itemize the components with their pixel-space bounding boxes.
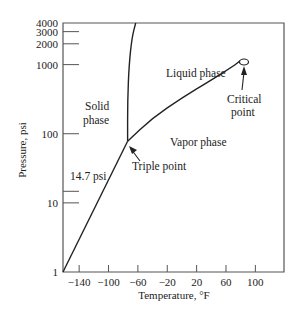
phase-diagram: −140−100−60−202060100 110100100020003000…	[0, 0, 299, 316]
liquid-phase-label: Liquid phase	[166, 67, 226, 80]
solid-phase-label-line1: Solid	[85, 100, 110, 112]
critical-point-arrow	[241, 66, 247, 90]
triple-point-arrow	[129, 146, 140, 161]
x-axis-title: Temperature, °F	[138, 289, 209, 301]
y-axis: 1101001000200030004000	[36, 17, 79, 278]
critical-point-label-line2: point	[231, 106, 255, 119]
x-tick-label: −100	[97, 276, 120, 288]
x-tick-label: −60	[129, 276, 147, 288]
x-tick-label: 60	[220, 276, 232, 288]
y-tick-label: 1000	[36, 59, 59, 71]
solid-phase-label-line2: phase	[83, 114, 109, 127]
x-tick-label: −140	[68, 276, 91, 288]
y-axis-title: Pressure, psi	[16, 122, 28, 178]
x-tick-label: 20	[191, 276, 203, 288]
melting-curve	[128, 23, 136, 141]
triple-point-label: Triple point	[132, 160, 187, 173]
atm-pressure-label: 14.7 psi	[70, 170, 106, 183]
critical-point-label-line1: Critical	[227, 93, 262, 105]
vapor-phase-label: Vapor phase	[170, 136, 227, 149]
critical-point-marker	[240, 59, 249, 65]
x-axis: −140−100−60−202060100	[68, 265, 264, 288]
x-tick-label: −20	[159, 276, 177, 288]
y-tick-label: 2000	[36, 38, 59, 50]
y-tick-label: 4000	[36, 17, 59, 29]
y-tick-label: 1	[53, 266, 59, 278]
sublimation-curve	[63, 141, 128, 272]
x-tick-label: 100	[247, 276, 264, 288]
y-tick-label: 10	[47, 197, 59, 209]
y-tick-label: 100	[42, 128, 59, 140]
